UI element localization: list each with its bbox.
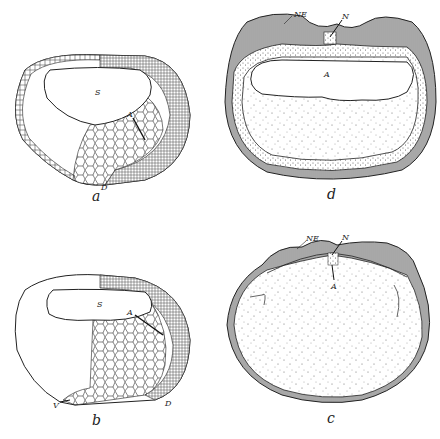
label-A: A <box>126 110 133 119</box>
label-A: A <box>323 70 330 79</box>
cross-section-c-illustration: N NE A <box>222 225 440 410</box>
label-N: N <box>341 233 350 242</box>
label-N: N <box>341 12 350 21</box>
label-S: S <box>97 300 103 309</box>
panel-d: A NE N <box>222 2 440 187</box>
label-NE: NE <box>293 10 307 19</box>
label-NE: NE <box>305 234 319 243</box>
panel-c: N NE A <box>222 225 440 410</box>
label-D: D <box>164 399 172 408</box>
cross-section-d-illustration: A NE N <box>222 2 440 187</box>
caption-a: a <box>92 188 100 204</box>
caption-b: b <box>92 412 101 428</box>
label-S: S <box>95 88 101 97</box>
label-A: A <box>330 282 337 291</box>
label-V: V <box>53 401 60 410</box>
cross-section-a-illustration: S A D <box>5 40 195 190</box>
caption-c: c <box>327 410 335 426</box>
caption-d: d <box>327 186 336 202</box>
cross-section-b-illustration: S A V D <box>5 270 195 420</box>
label-A: A <box>126 308 133 317</box>
panel-a: S A D <box>5 40 195 190</box>
label-D: D <box>100 183 108 190</box>
panel-b: S A V D <box>5 270 195 420</box>
